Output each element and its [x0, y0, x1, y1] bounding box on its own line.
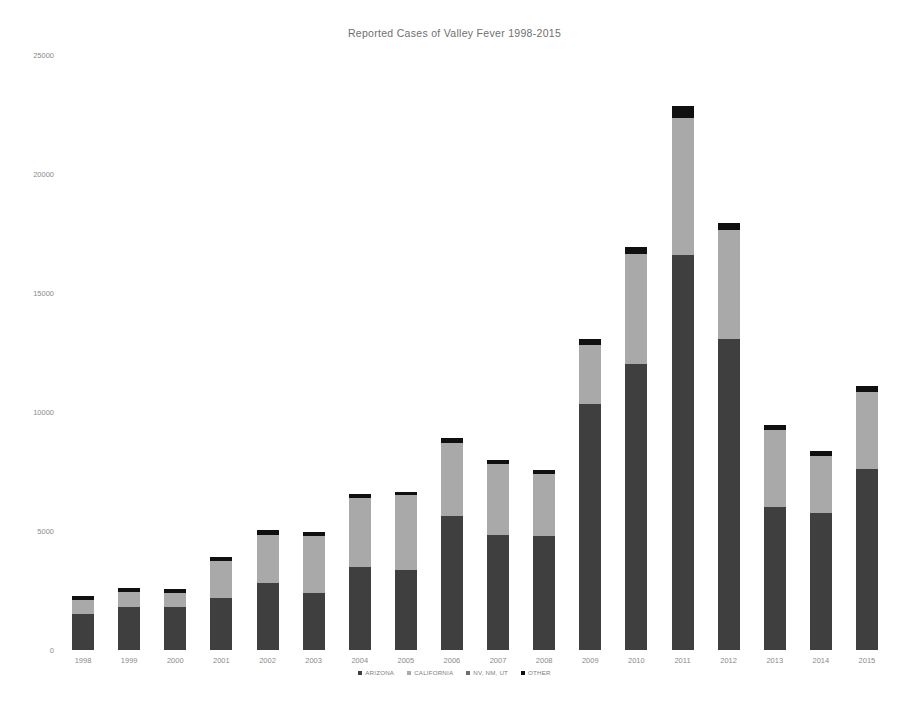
bar-segment-california: [118, 592, 140, 607]
bar-segment-california: [533, 474, 555, 536]
x-axis-tick-label: 2006: [429, 656, 475, 665]
bar-segment-arizona: [210, 598, 232, 650]
x-axis-tick-label: 2008: [521, 656, 567, 665]
bar-2014: [810, 451, 832, 650]
legend-swatch-icon: [407, 671, 411, 675]
bar-2008: [533, 470, 555, 650]
bar-segment-california: [164, 593, 186, 607]
legend-item: OTHER: [521, 669, 551, 676]
legend-item: NV, NM, UT: [466, 669, 508, 676]
bar-2001: [210, 557, 232, 650]
bar-2009: [579, 339, 601, 650]
bar-segment-california: [764, 430, 786, 507]
bar-segment-california: [579, 345, 601, 403]
bar-segment-california: [487, 464, 509, 534]
x-axis-tick-label: 2011: [660, 656, 706, 665]
bar-2000: [164, 589, 186, 650]
legend-item: ARIZONA: [358, 669, 394, 676]
legend-swatch-icon: [358, 671, 362, 675]
bar-segment-california: [395, 495, 417, 570]
legend-label: NV, NM, UT: [473, 669, 508, 676]
bar-2011: [672, 106, 694, 650]
bar-segment-arizona: [164, 607, 186, 650]
bar-segment-arizona: [487, 535, 509, 650]
bar-segment-arizona: [625, 364, 647, 650]
bar-2012: [718, 223, 740, 650]
bar-segment-arizona: [810, 513, 832, 650]
bar-segment-arizona: [441, 516, 463, 650]
x-axis-tick-label: 2012: [706, 656, 752, 665]
bar-segment-california: [625, 254, 647, 365]
bar-segment-arizona: [349, 567, 371, 650]
bar-2003: [303, 532, 325, 650]
bar-segment-california: [72, 600, 94, 614]
bar-segment-other: [625, 247, 647, 254]
x-axis-tick-label: 2000: [152, 656, 198, 665]
x-axis-tick-label: 2010: [613, 656, 659, 665]
y-axis-tick-label: 20000: [33, 170, 54, 179]
bar-segment-arizona: [303, 593, 325, 650]
x-axis-tick-label: 1998: [60, 656, 106, 665]
plot-area: [60, 55, 890, 650]
legend-swatch-icon: [521, 671, 525, 675]
bar-segment-california: [303, 536, 325, 593]
bar-2015: [856, 386, 878, 650]
y-axis: 0500010000150002000025000: [0, 0, 54, 704]
legend-label: CALIFORNIA: [414, 669, 453, 676]
x-axis-tick-label: 2015: [844, 656, 890, 665]
bar-segment-arizona: [118, 607, 140, 650]
bar-segment-california: [441, 443, 463, 516]
legend-swatch-icon: [466, 671, 470, 675]
bar-segment-arizona: [257, 583, 279, 650]
bar-segment-arizona: [672, 255, 694, 650]
bar-segment-arizona: [395, 570, 417, 650]
y-axis-tick-label: 5000: [37, 527, 54, 536]
legend-item: CALIFORNIA: [407, 669, 453, 676]
bar-1998: [72, 596, 94, 650]
bar-segment-arizona: [764, 507, 786, 650]
legend-label: OTHER: [528, 669, 551, 676]
bar-segment-arizona: [856, 469, 878, 650]
bar-2006: [441, 438, 463, 650]
bar-segment-arizona: [72, 614, 94, 650]
x-axis-tick-label: 2003: [291, 656, 337, 665]
bar-segment-california: [810, 456, 832, 513]
bar-2005: [395, 492, 417, 650]
bar-segment-arizona: [579, 404, 601, 650]
bar-segment-california: [672, 118, 694, 255]
x-axis-tick-label: 2013: [752, 656, 798, 665]
y-axis-tick-label: 10000: [33, 408, 54, 417]
chart-legend: ARIZONACALIFORNIANV, NM, UTOTHER: [0, 669, 909, 676]
chart-title: Reported Cases of Valley Fever 1998-2015: [0, 27, 909, 39]
bar-segment-california: [718, 230, 740, 339]
y-axis-tick-label: 25000: [33, 51, 54, 60]
bar-2004: [349, 494, 371, 650]
bar-segment-other: [718, 223, 740, 230]
x-axis-tick-label: 2001: [198, 656, 244, 665]
legend-label: ARIZONA: [365, 669, 394, 676]
x-axis-tick-label: 2004: [337, 656, 383, 665]
bar-2007: [487, 460, 509, 650]
bar-segment-arizona: [718, 339, 740, 650]
bar-segment-california: [257, 535, 279, 584]
bar-2013: [764, 425, 786, 650]
x-axis-tick-label: 1999: [106, 656, 152, 665]
x-axis-tick-label: 2014: [798, 656, 844, 665]
bar-segment-california: [210, 561, 232, 598]
bar-2002: [257, 530, 279, 650]
bar-2010: [625, 247, 647, 650]
bar-segment-other: [672, 106, 694, 118]
x-axis-tick-label: 2009: [567, 656, 613, 665]
bar-segment-california: [349, 498, 371, 567]
bar-segment-california: [856, 392, 878, 469]
y-axis-tick-label: 0: [50, 646, 54, 655]
x-axis-tick-label: 2002: [245, 656, 291, 665]
bar-segment-arizona: [533, 536, 555, 650]
y-axis-tick-label: 15000: [33, 289, 54, 298]
x-axis-tick-label: 2005: [383, 656, 429, 665]
bar-1999: [118, 588, 140, 650]
chart-page: Reported Cases of Valley Fever 1998-2015…: [0, 0, 909, 704]
x-axis-tick-label: 2007: [475, 656, 521, 665]
